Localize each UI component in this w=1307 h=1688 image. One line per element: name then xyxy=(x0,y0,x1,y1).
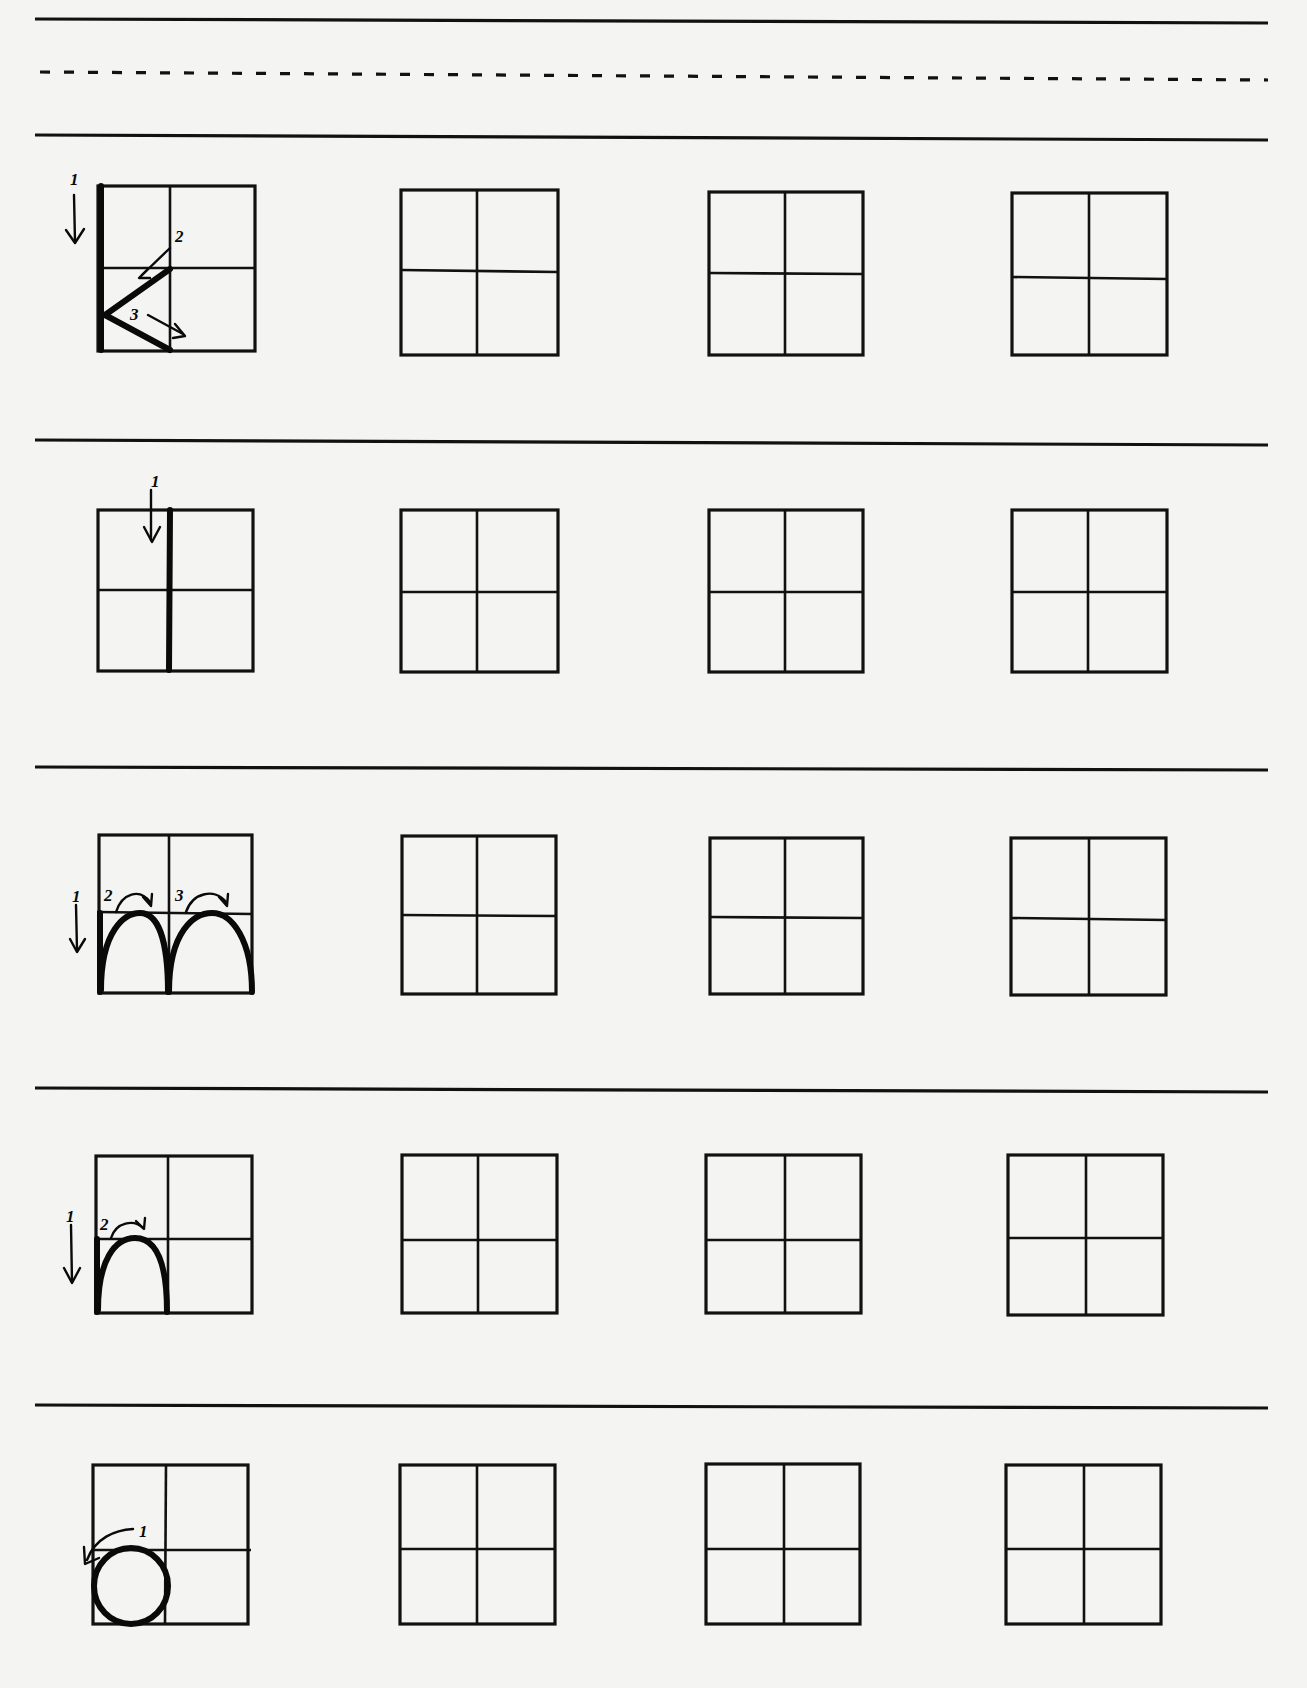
practice-box[interactable] xyxy=(402,1155,557,1313)
arrow-down-right-icon xyxy=(148,315,185,338)
practice-box[interactable] xyxy=(1011,838,1166,995)
arrow-down-icon xyxy=(144,490,160,542)
stroke-1-circle xyxy=(94,1548,168,1624)
practice-box[interactable] xyxy=(1006,1465,1161,1624)
example-box-k: 1 2 3 xyxy=(66,170,255,351)
example-box-n: 1 2 xyxy=(64,1156,252,1313)
stroke-2-arch xyxy=(101,913,168,992)
practice-box[interactable] xyxy=(401,510,558,672)
arrow-arch-right-icon xyxy=(111,1218,145,1238)
row-3: 1 2 3 xyxy=(70,835,1166,995)
stroke-number-1: 1 xyxy=(66,1207,75,1226)
practice-box[interactable] xyxy=(709,510,863,672)
stroke-number-1: 1 xyxy=(151,472,160,491)
header-top-line xyxy=(35,19,1268,23)
row-separator-3 xyxy=(35,1088,1268,1092)
practice-box[interactable] xyxy=(706,1464,860,1624)
stroke-number-3: 3 xyxy=(174,886,184,905)
header-writing-band xyxy=(35,19,1268,140)
handwriting-worksheet: 1 2 3 xyxy=(0,0,1307,1688)
stroke-number-1: 1 xyxy=(139,1522,148,1541)
example-box-o: 1 xyxy=(84,1465,251,1624)
example-box-m: 1 2 3 xyxy=(70,835,252,993)
practice-box[interactable] xyxy=(710,838,863,994)
row-5: 1 xyxy=(84,1464,1161,1624)
row-separator-1 xyxy=(35,440,1268,445)
practice-box[interactable] xyxy=(1012,193,1167,355)
practice-box[interactable] xyxy=(706,1155,861,1313)
arrow-down-icon xyxy=(66,195,84,243)
practice-box[interactable] xyxy=(400,1465,555,1624)
stroke-1-vertical xyxy=(169,510,170,670)
stroke-number-2: 2 xyxy=(99,1215,109,1234)
row-separator-4 xyxy=(35,1405,1268,1408)
stroke-3-arch xyxy=(169,913,252,992)
practice-box[interactable] xyxy=(709,192,863,355)
stroke-number-2: 2 xyxy=(103,886,113,905)
header-midline-dashed xyxy=(40,72,1268,80)
arrow-arch-right-icon xyxy=(186,894,228,912)
example-box-l: 1 xyxy=(98,472,253,671)
stroke-number-1: 1 xyxy=(70,170,79,189)
stroke-number-3: 3 xyxy=(129,305,139,324)
practice-box[interactable] xyxy=(402,836,556,994)
stroke-2-arch xyxy=(98,1238,167,1312)
row-1: 1 2 3 xyxy=(66,170,1167,355)
header-bottom-line xyxy=(35,135,1268,140)
practice-box[interactable] xyxy=(401,190,558,355)
arrow-down-icon xyxy=(64,1225,80,1283)
arrow-arch-right-icon xyxy=(116,894,152,912)
arrow-down-icon xyxy=(70,905,85,952)
stroke-number-1: 1 xyxy=(72,887,81,906)
stroke-number-2: 2 xyxy=(174,227,184,246)
practice-box[interactable] xyxy=(1012,510,1167,672)
practice-box[interactable] xyxy=(1008,1155,1163,1315)
row-separator-2 xyxy=(35,767,1268,770)
row-4: 1 2 xyxy=(64,1155,1163,1315)
row-2: 1 xyxy=(98,472,1167,672)
